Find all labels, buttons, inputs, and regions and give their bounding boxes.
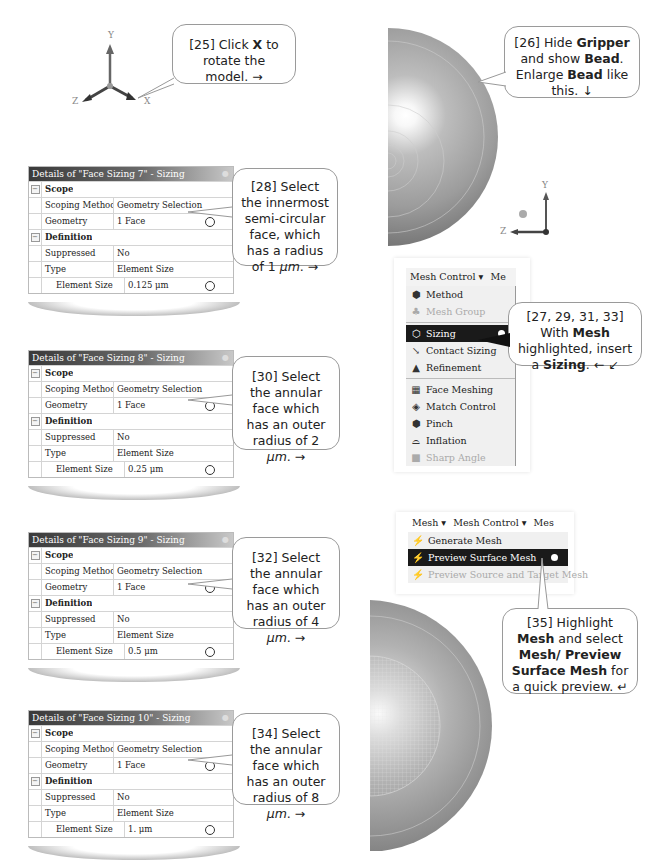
element-size-input[interactable]: 1. μm xyxy=(128,824,152,834)
mesh-control-dropdown-list: ⬢Method ♣Mesh Group ⬡Sizing ↘Contact Siz… xyxy=(406,286,516,466)
section-definition[interactable]: −Definition xyxy=(29,413,233,429)
collapse-icon[interactable]: − xyxy=(31,369,40,378)
row-suppressed[interactable]: SuppressedNo xyxy=(29,429,233,445)
row-type[interactable]: TypeElement Size xyxy=(29,445,233,461)
callout-pointer-30 xyxy=(186,394,234,406)
row-suppressed[interactable]: SuppressedNo xyxy=(29,245,233,261)
callout-step-32: [32] Select the annular face which has a… xyxy=(232,537,340,629)
pin-icon[interactable]: ● xyxy=(222,167,229,181)
collapse-icon[interactable]: − xyxy=(31,777,40,786)
pin-icon[interactable]: ● xyxy=(222,351,229,365)
menu-item-face-meshing[interactable]: ▦Face Meshing xyxy=(406,381,515,398)
menu-separator xyxy=(406,378,515,379)
section-scope[interactable]: −Scope xyxy=(29,725,233,741)
collapse-icon[interactable]: − xyxy=(31,185,40,194)
collapse-icon[interactable]: − xyxy=(31,417,40,426)
pinch-icon: ⬢ xyxy=(410,418,422,430)
element-size-input[interactable]: 0.5 μm xyxy=(128,646,158,656)
section-scope[interactable]: −Scope xyxy=(29,547,233,563)
collapse-icon[interactable]: − xyxy=(31,599,40,608)
mesh-control-dropdown[interactable]: Mesh Control ▾ xyxy=(453,517,526,528)
collapse-icon[interactable]: − xyxy=(31,729,40,738)
pin-icon[interactable]: ● xyxy=(222,711,229,725)
panel-title: Details of "Face Sizing 8" - Sizing● xyxy=(29,351,233,365)
details-panel-face-sizing-10: Details of "Face Sizing 10" - Sizing● −S… xyxy=(28,710,248,860)
panel-shadow xyxy=(28,846,240,860)
row-suppressed[interactable]: SuppressedNo xyxy=(29,789,233,805)
triad-y-label: Y xyxy=(108,30,114,40)
meshed-bead-view xyxy=(370,600,492,851)
bead-face-rings xyxy=(388,28,498,246)
menu-item-inflation[interactable]: ⌓Inflation xyxy=(406,432,515,449)
row-scoping-method[interactable]: Scoping MethodGeometry Selection xyxy=(29,563,233,579)
mesh-control-dropdown[interactable]: Mesh Control ▾ xyxy=(410,271,483,282)
element-size-input[interactable]: 0.125 μm xyxy=(128,280,169,290)
preview-surface-mesh-icon: ⚡ xyxy=(412,552,424,564)
panel-title: Details of "Face Sizing 9" - Sizing● xyxy=(29,533,233,547)
mesh-toolbar-button[interactable]: Mes xyxy=(534,517,554,528)
bead-sphere-view xyxy=(388,28,498,246)
row-suppressed[interactable]: SuppressedNo xyxy=(29,611,233,627)
row-element-size[interactable]: Element Size1. μm xyxy=(29,821,233,837)
menu-item-method[interactable]: ⬢Method xyxy=(406,286,515,303)
menu-item-refinement[interactable]: ▲Refinement xyxy=(406,359,515,376)
callout-step-35: [35] Highlight Mesh and select Mesh/ Pre… xyxy=(502,608,638,694)
details-panel-face-sizing-8: Details of "Face Sizing 8" - Sizing● −Sc… xyxy=(28,350,248,500)
panel-shadow xyxy=(28,302,240,316)
bead-triad-axes-icon xyxy=(500,180,560,240)
bead-triad: Y Z xyxy=(500,180,560,240)
mesh-toolbar-button[interactable]: Me xyxy=(490,271,505,282)
section-scope[interactable]: −Scope xyxy=(29,181,233,197)
triad-z-label: Z xyxy=(72,96,78,106)
mesh-control-menu: Mesh Control ▾ Me ⬢Method ♣Mesh Group ⬡S… xyxy=(406,268,516,466)
inflation-icon: ⌓ xyxy=(410,435,422,447)
menu-item-match-control[interactable]: ◈Match Control xyxy=(406,398,515,415)
method-icon: ⬢ xyxy=(410,289,422,301)
sizing-icon: ⬡ xyxy=(410,328,422,340)
callout-pointer-35 xyxy=(536,556,550,610)
callout-step-26: [26] Hide Gripper and show Bead. Enlarge… xyxy=(504,26,640,98)
marker-circle-icon xyxy=(205,217,215,227)
bead-triad-y-label: Y xyxy=(542,180,548,190)
menu-item-mesh-group: ♣Mesh Group xyxy=(406,303,515,320)
marker-circle-icon xyxy=(205,465,215,475)
callout-pointer-27 xyxy=(476,332,512,348)
pin-icon[interactable]: ● xyxy=(222,533,229,547)
match-control-icon: ◈ xyxy=(410,401,422,413)
mesh-dropdown[interactable]: Mesh ▾ xyxy=(412,517,446,528)
section-definition[interactable]: −Definition xyxy=(29,773,233,789)
row-type[interactable]: TypeElement Size xyxy=(29,261,233,277)
menu-item-sharp-angle: ■Sharp Angle xyxy=(406,449,515,466)
row-type[interactable]: TypeElement Size xyxy=(29,627,233,643)
menu-item-generate-mesh[interactable]: ⚡Generate Mesh xyxy=(408,532,568,549)
element-size-input[interactable]: 0.25 μm xyxy=(128,464,163,474)
preview-source-target-icon: ⚡ xyxy=(412,569,424,581)
section-scope[interactable]: −Scope xyxy=(29,365,233,381)
row-type[interactable]: TypeElement Size xyxy=(29,805,233,821)
panel-title: Details of "Face Sizing 10" - Sizing● xyxy=(29,711,233,725)
menu-item-pinch[interactable]: ⬢Pinch xyxy=(406,415,515,432)
toolbar: Mesh Control ▾ Me xyxy=(406,268,516,286)
refinement-icon: ▲ xyxy=(410,362,422,374)
marker-circle-icon xyxy=(205,281,215,291)
row-element-size[interactable]: Element Size0.5 μm xyxy=(29,643,233,659)
callout-pointer-34 xyxy=(186,754,234,766)
callout-step-25: [25] Click X to rotate the model. → xyxy=(172,24,296,84)
collapse-icon[interactable]: − xyxy=(31,551,40,560)
callout-pointer-25 xyxy=(136,60,176,100)
details-panel-face-sizing-7: Details of "Face Sizing 7" - Sizing● −Sc… xyxy=(28,166,248,316)
callout-step-30: [30] Select the annular face which has a… xyxy=(232,356,340,450)
face-meshing-icon: ▦ xyxy=(410,384,422,396)
section-definition[interactable]: −Definition xyxy=(29,595,233,611)
section-definition[interactable]: −Definition xyxy=(29,229,233,245)
contact-sizing-icon: ↘ xyxy=(410,345,422,357)
row-element-size[interactable]: Element Size0.125 μm xyxy=(29,277,233,293)
callout-step-27-29-31-33: [27, 29, 31, 33] With Mesh highlighted, … xyxy=(508,302,642,366)
menu-separator xyxy=(406,322,515,323)
bead-triad-z-label: Z xyxy=(500,226,506,236)
callout-pointer-32 xyxy=(186,578,234,590)
row-element-size[interactable]: Element Size0.25 μm xyxy=(29,461,233,477)
panel-title: Details of "Face Sizing 7" - Sizing● xyxy=(29,167,233,181)
marker-circle-icon xyxy=(205,825,215,835)
collapse-icon[interactable]: − xyxy=(31,233,40,242)
